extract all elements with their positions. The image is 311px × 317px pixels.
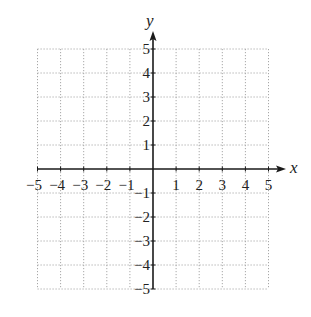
- x-tick-label: 1: [172, 177, 180, 193]
- y-tick-label: −4: [134, 257, 150, 273]
- y-tick-label: −2: [134, 209, 150, 225]
- y-axis-label: y: [144, 11, 154, 30]
- y-tick-label: 3: [143, 89, 151, 105]
- x-tick-label: 2: [195, 177, 203, 193]
- coordinate-plane: −5−4−3−2−112345 54321−1−2−3−4−5 x y: [0, 0, 311, 317]
- x-tick-label: −1: [118, 177, 134, 193]
- y-tick-label: 2: [143, 113, 151, 129]
- y-tick-label: −3: [134, 233, 150, 249]
- y-tick-label: 1: [143, 137, 151, 153]
- x-tick-label: 3: [219, 177, 227, 193]
- y-tick-label: −1: [134, 185, 150, 201]
- x-tick-label: −4: [49, 177, 65, 193]
- y-tick-label: 4: [143, 65, 151, 81]
- x-tick-label: 4: [242, 177, 250, 193]
- x-tick-label: −3: [72, 177, 88, 193]
- x-axis-label: x: [289, 158, 298, 177]
- axes: [38, 31, 287, 289]
- y-tick-label: 5: [143, 41, 151, 57]
- x-tick-label: −2: [95, 177, 111, 193]
- x-tick-label: −5: [26, 177, 42, 193]
- y-tick-label: −5: [134, 281, 150, 297]
- x-tick-label: 5: [265, 177, 273, 193]
